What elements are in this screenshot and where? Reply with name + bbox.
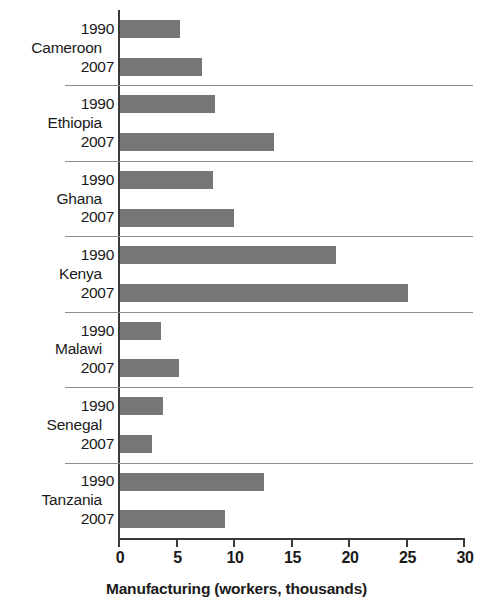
bar-group: Malawi19902007 (0, 312, 473, 387)
bar-row: 2007 (0, 123, 473, 161)
bar (120, 435, 152, 453)
x-axis-tick (233, 538, 235, 547)
x-axis-tick-label: 15 (273, 549, 313, 567)
bar-track (120, 10, 465, 48)
bar-row: 1990 (0, 236, 473, 274)
x-axis-tick-label: 20 (330, 549, 370, 567)
bar (120, 20, 180, 38)
year-label: 2007 (62, 500, 114, 538)
bar-group: Tanzania19902007 (0, 463, 473, 538)
bar (120, 133, 274, 151)
bar-track (120, 312, 465, 350)
bar-track (120, 387, 465, 425)
x-axis-tick (176, 538, 178, 547)
year-label: 2007 (62, 425, 114, 463)
bar (120, 473, 264, 491)
bar-row: 2007 (0, 199, 473, 237)
x-axis-tick (291, 538, 293, 547)
x-axis-tick (348, 538, 350, 547)
bar (120, 510, 225, 528)
bar (120, 58, 202, 76)
bar-row: 2007 (0, 274, 473, 312)
bar-row: 1990 (0, 85, 473, 123)
bar-row: 1990 (0, 312, 473, 350)
x-axis-tick-label: 10 (215, 549, 255, 567)
x-axis-tick-label: 0 (100, 549, 140, 567)
bar-track (120, 48, 465, 86)
bar-track (120, 500, 465, 538)
bar-row: 1990 (0, 387, 473, 425)
x-axis-tick-label: 25 (388, 549, 428, 567)
bar-track (120, 199, 465, 237)
bar (120, 284, 408, 302)
year-label: 2007 (62, 123, 114, 161)
bar (120, 209, 234, 227)
bar-track (120, 236, 465, 274)
year-label: 2007 (62, 48, 114, 86)
bar-track (120, 463, 465, 501)
bar-row: 1990 (0, 463, 473, 501)
x-axis-tick (406, 538, 408, 547)
bar-track (120, 425, 465, 463)
year-label: 2007 (62, 349, 114, 387)
bar (120, 246, 336, 264)
bar (120, 95, 215, 113)
chart-plot-area: Cameroon19902007Ethiopia19902007Ghana199… (0, 10, 473, 538)
bar-row: 2007 (0, 500, 473, 538)
bar-row: 2007 (0, 425, 473, 463)
bar-track (120, 274, 465, 312)
bar-row: 1990 (0, 10, 473, 48)
bar (120, 397, 163, 415)
bar-track (120, 123, 465, 161)
x-axis-tick-label: 5 (158, 549, 198, 567)
bar (120, 322, 161, 340)
bar-track (120, 85, 465, 123)
x-axis-tick (463, 538, 465, 547)
year-label: 1990 (62, 463, 114, 501)
x-axis-tick (118, 538, 120, 547)
year-label: 1990 (62, 236, 114, 274)
bar-group: Kenya19902007 (0, 236, 473, 311)
bar-group: Ghana19902007 (0, 161, 473, 236)
bar-row: 2007 (0, 48, 473, 86)
x-axis-title: Manufacturing (workers, thousands) (0, 580, 473, 598)
year-label: 1990 (62, 10, 114, 48)
bar-row: 1990 (0, 161, 473, 199)
bar-group: Cameroon19902007 (0, 10, 473, 85)
year-label: 1990 (62, 161, 114, 199)
bar-row: 2007 (0, 349, 473, 387)
x-axis-tick-label: 30 (445, 549, 478, 567)
bar-group: Ethiopia19902007 (0, 85, 473, 160)
bar-track (120, 349, 465, 387)
bar (120, 359, 179, 377)
bar (120, 171, 213, 189)
year-label: 1990 (62, 387, 114, 425)
year-label: 2007 (62, 199, 114, 237)
year-label: 2007 (62, 274, 114, 312)
year-label: 1990 (62, 312, 114, 350)
year-label: 1990 (62, 85, 114, 123)
bar-track (120, 161, 465, 199)
bar-group: Senegal19902007 (0, 387, 473, 462)
